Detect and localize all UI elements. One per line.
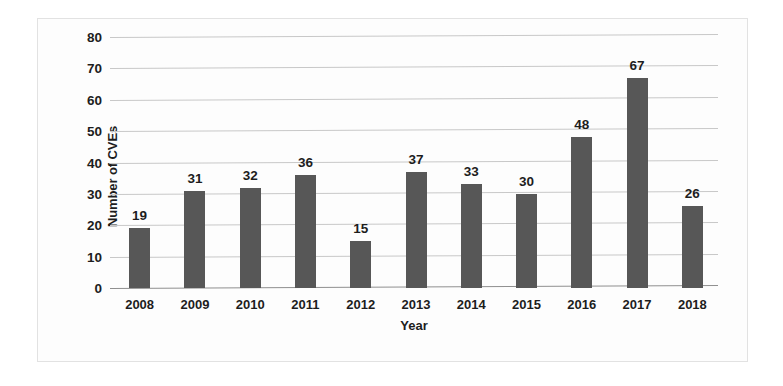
y-axis-tick-label: 50 [87, 124, 102, 139]
x-axis-tick-label: 2009 [180, 297, 209, 312]
x-axis-tick-label: 2010 [236, 297, 265, 312]
x-axis-tick-label: 2015 [512, 297, 541, 312]
bar [682, 206, 703, 288]
y-axis-tick-label: 0 [94, 281, 102, 296]
y-axis-tick-label: 20 [87, 218, 102, 233]
bar-value-label: 15 [353, 221, 368, 236]
x-axis-tick-label: 2016 [567, 297, 596, 312]
y-axis-tick-label: 80 [87, 30, 102, 45]
bar-value-label: 37 [408, 152, 423, 167]
bar-value-label: 33 [464, 164, 479, 179]
bar [240, 188, 261, 288]
plot-area: 01020304050607080 1920083120093220103620… [110, 37, 718, 288]
bar [129, 228, 150, 288]
y-axis-tick-label: 60 [87, 92, 102, 107]
bar-value-label: 36 [298, 155, 313, 170]
x-axis-tick-label: 2017 [623, 297, 652, 312]
bar-value-label: 32 [243, 168, 258, 183]
bar-series: 1920083120093220103620111520123720133320… [110, 37, 718, 288]
bar-value-label: 48 [574, 117, 589, 132]
bar [627, 78, 648, 288]
bar [516, 194, 537, 288]
bar-value-label: 30 [519, 174, 534, 189]
bar-value-label: 26 [685, 186, 700, 201]
y-axis-tick-label: 10 [87, 249, 102, 264]
x-axis-tick-label: 2013 [402, 297, 431, 312]
bar [184, 191, 205, 288]
bar-value-label: 31 [187, 171, 202, 186]
x-axis-tick-label: 2011 [291, 297, 319, 312]
chart-container: Number of CVEs 01020304050607080 1920083… [37, 18, 748, 362]
y-axis-tick-label: 70 [87, 61, 102, 76]
y-axis-tick-label: 30 [87, 186, 102, 201]
bar-value-label: 67 [630, 58, 645, 73]
x-axis-tick-label: 2012 [346, 297, 375, 312]
bar [295, 175, 316, 288]
x-axis-tick-label: 2014 [457, 297, 486, 312]
chart-plot-wrapper: Number of CVEs 01020304050607080 1920083… [38, 19, 747, 361]
bar [350, 241, 371, 288]
bar [461, 184, 482, 288]
x-axis-title: Year [110, 318, 718, 333]
bar-value-label: 19 [132, 208, 147, 223]
bar [571, 137, 592, 288]
y-axis-tick-label: 40 [87, 155, 102, 170]
x-axis-tick-label: 2018 [678, 297, 707, 312]
x-axis-tick-label: 2008 [125, 297, 154, 312]
bar [406, 172, 427, 288]
